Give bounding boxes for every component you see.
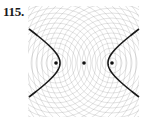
focus-points: [54, 61, 114, 65]
right-focus-point: [110, 61, 114, 65]
left-focus-point: [54, 61, 58, 65]
center-point: [82, 61, 86, 65]
concentric-circle-pattern: [0, 0, 150, 127]
hyperbola-diagram: [0, 0, 150, 127]
